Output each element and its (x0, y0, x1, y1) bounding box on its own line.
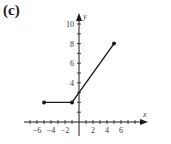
y-tick-label: 6 (70, 59, 74, 68)
y-tick-label: 8 (70, 40, 74, 49)
piecewise-line-chart: −6−4−224646810xy (0, 0, 171, 144)
y-tick-label: 4 (70, 79, 74, 88)
x-tick-label: −4 (47, 126, 56, 135)
data-point (42, 100, 46, 104)
y-axis-label: y (82, 12, 87, 21)
data-point (70, 100, 74, 104)
x-axis-label: x (142, 110, 147, 119)
y-axis-arrow-icon (76, 13, 82, 21)
y-tick-label: 10 (66, 20, 74, 29)
x-axis-arrow-icon (140, 119, 148, 125)
x-tick-label: 6 (119, 126, 123, 135)
x-tick-label: 4 (105, 126, 109, 135)
x-tick-label: 2 (91, 126, 95, 135)
x-tick-label: −6 (33, 126, 42, 135)
x-tick-label: −2 (61, 126, 70, 135)
data-point (112, 42, 116, 46)
